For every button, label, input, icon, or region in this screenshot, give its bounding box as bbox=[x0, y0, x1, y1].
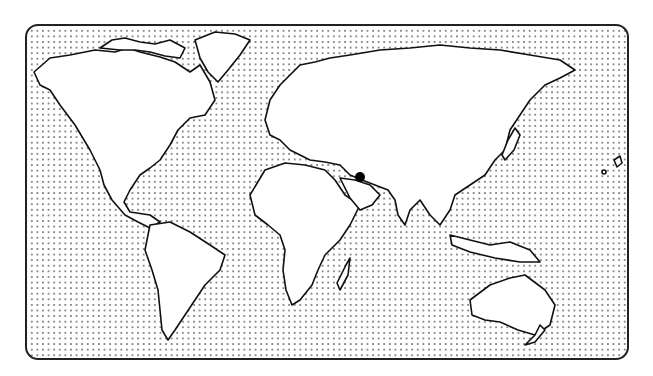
location-dot-icon bbox=[355, 172, 365, 182]
region-madagascar bbox=[337, 258, 350, 290]
world-map bbox=[0, 0, 653, 376]
region-north-america bbox=[34, 48, 215, 228]
region-pacific-island bbox=[614, 156, 622, 167]
region-south-america bbox=[145, 222, 225, 340]
region-indonesia bbox=[450, 235, 540, 262]
region-pacific-islet bbox=[602, 170, 606, 174]
region-australia bbox=[470, 275, 555, 335]
